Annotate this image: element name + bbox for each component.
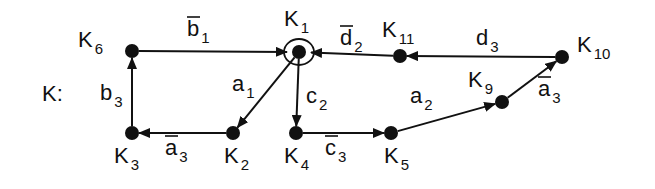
node-k5 (384, 126, 398, 140)
edge-k6-k1 (139, 51, 287, 52)
edge-label-a1: a1 (232, 71, 255, 101)
labels: K1K2K3K4K5K6K9K10K11b1a1c2a3b3c3a2a3d3d2 (78, 6, 610, 173)
node-label-k6: K6 (78, 27, 103, 57)
svg-text:a3: a3 (165, 135, 188, 165)
svg-text:c2: c2 (306, 83, 327, 113)
svg-text:b1: b1 (187, 16, 210, 46)
nodes (125, 44, 569, 140)
node-k11 (393, 49, 407, 63)
edge-label-c3-bar: c3 (325, 135, 346, 165)
edge-label-a2: a2 (410, 83, 433, 113)
node-label-k10: K10 (577, 32, 610, 62)
svg-text:d2: d2 (340, 25, 363, 55)
edge-label-c2: c2 (306, 83, 327, 113)
node-k9 (495, 95, 509, 109)
graph-title: K: (42, 81, 63, 106)
edge-label-b3: b3 (100, 80, 123, 110)
graph-diagram: K: K1K2K3K4K5K6K9K10K11b1a1c2a3b3c3a2a3d… (0, 0, 655, 189)
svg-text:a3: a3 (538, 76, 561, 106)
node-k1 (292, 45, 306, 59)
graph-title-label: K: (42, 81, 63, 106)
node-k2 (226, 126, 240, 140)
svg-text:b3: b3 (100, 80, 123, 110)
node-label-k11: K11 (382, 17, 414, 47)
node-label-k4: K4 (284, 143, 309, 173)
svg-text:d3: d3 (476, 25, 499, 55)
svg-text:c3: c3 (325, 135, 346, 165)
node-label-k1: K1 (284, 6, 309, 36)
edge-label-d3: d3 (476, 25, 499, 55)
edge-k11-k1 (311, 52, 393, 55)
edge-k10-k11 (407, 56, 555, 57)
edge-label-b1-bar: b1 (187, 16, 210, 46)
node-k3 (125, 126, 139, 140)
edge-label-a3-bar: a3 (538, 76, 561, 106)
edge-label-a3-bar: a3 (165, 135, 188, 165)
node-k10 (555, 50, 569, 64)
node-label-k9: K9 (468, 67, 493, 97)
node-label-k5: K5 (384, 143, 409, 173)
edge-label-d2-bar: d2 (340, 25, 363, 55)
node-label-k2: K2 (224, 143, 249, 173)
node-k6 (125, 44, 139, 58)
svg-text:a2: a2 (410, 83, 433, 113)
edge-k1-k4 (296, 59, 298, 126)
node-k4 (289, 126, 303, 140)
node-label-k3: K3 (114, 143, 139, 173)
svg-text:a1: a1 (232, 71, 255, 101)
